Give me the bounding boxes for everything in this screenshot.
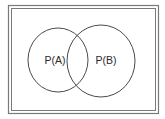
label-a: P(A) (45, 54, 66, 66)
inner-frame (12, 9, 156, 111)
venn-diagram: P(A) P(B) (0, 0, 165, 119)
outer-frame (9, 6, 159, 114)
label-b: P(B) (96, 54, 117, 66)
